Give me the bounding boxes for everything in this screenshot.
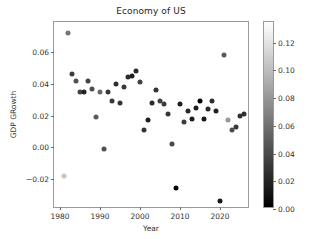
- y-axis-label-text: GDP GRowth: [10, 91, 19, 139]
- x-tick-label: 2020: [210, 212, 229, 221]
- x-tick-label: 1980: [50, 212, 69, 221]
- scatter-point: [118, 100, 123, 105]
- colorbar-tick-mark: [273, 181, 276, 182]
- y-tick-label: 0.00: [32, 143, 49, 152]
- scatter-point: [210, 99, 215, 104]
- scatter-point: [134, 69, 139, 74]
- scatter-point: [214, 108, 219, 113]
- scatter-point: [62, 173, 67, 178]
- x-axis-label: Year: [53, 224, 249, 233]
- colorbar-tick-mark: [273, 209, 276, 210]
- colorbar-tick-mark: [273, 70, 276, 71]
- y-tick-label: 0.04: [32, 79, 49, 88]
- y-tick-label: −0.02: [26, 174, 49, 183]
- y-tick-mark: [51, 116, 54, 117]
- scatter-point: [234, 124, 239, 129]
- scatter-point: [194, 105, 199, 110]
- scatter-point: [114, 81, 119, 86]
- colorbar-tick-label: 0.02: [278, 177, 295, 186]
- scatter-point: [94, 115, 99, 120]
- plot-axes: 0.060.040.020.00−0.02 198019902000201020…: [53, 21, 249, 208]
- colorbar-tick-label: 0.10: [278, 66, 295, 75]
- y-tick-mark: [51, 84, 54, 85]
- colorbar-tick-label: 0.08: [278, 94, 295, 103]
- scatter-point: [242, 111, 247, 116]
- y-axis-label: GDP GRowth: [8, 21, 20, 208]
- y-tick-label: 0.02: [32, 111, 49, 120]
- scatter-point: [150, 100, 155, 105]
- x-tick-mark: [180, 207, 181, 210]
- scatter-point: [202, 116, 207, 121]
- scatter-point: [182, 119, 187, 124]
- scatter-point: [198, 99, 203, 104]
- scatter-point: [154, 88, 159, 93]
- chart-figure: Economy of US 0.060.040.020.00−0.02 1980…: [0, 0, 311, 239]
- scatter-point: [226, 118, 231, 123]
- scatter-point: [70, 72, 75, 77]
- colorbar-tick-mark: [273, 43, 276, 44]
- y-tick-mark: [51, 147, 54, 148]
- scatter-point: [166, 111, 171, 116]
- scatter-point: [106, 89, 111, 94]
- y-tick-mark: [51, 179, 54, 180]
- scatter-point: [146, 118, 151, 123]
- scatter-point: [102, 146, 107, 151]
- scatter-point: [98, 89, 103, 94]
- x-tick-mark: [220, 207, 221, 210]
- scatter-points-layer: [54, 22, 248, 207]
- scatter-point: [178, 102, 183, 107]
- scatter-point: [174, 186, 179, 191]
- scatter-point: [186, 108, 191, 113]
- scatter-point: [130, 73, 135, 78]
- colorbar-tick-label: 0.04: [278, 149, 295, 158]
- scatter-point: [58, 105, 63, 110]
- y-tick-label: 0.06: [32, 48, 49, 57]
- scatter-point: [66, 31, 71, 36]
- colorbar: 0.120.100.080.060.040.020.00: [263, 21, 274, 208]
- scatter-point: [170, 142, 175, 147]
- x-tick-label: 2000: [130, 212, 149, 221]
- x-tick-label: 1990: [90, 212, 109, 221]
- colorbar-tick-label: 0.00: [278, 205, 295, 214]
- scatter-point: [206, 107, 211, 112]
- colorbar-tick-mark: [273, 98, 276, 99]
- scatter-point: [90, 86, 95, 91]
- y-tick-mark: [51, 52, 54, 53]
- scatter-point: [190, 116, 195, 121]
- scatter-point: [110, 99, 115, 104]
- scatter-point: [138, 80, 143, 85]
- scatter-point: [162, 102, 167, 107]
- x-tick-mark: [100, 207, 101, 210]
- scatter-point: [82, 89, 87, 94]
- scatter-point: [86, 78, 91, 83]
- colorbar-tick-label: 0.12: [278, 38, 295, 47]
- scatter-point: [74, 78, 79, 83]
- x-tick-mark: [60, 207, 61, 210]
- x-tick-mark: [140, 207, 141, 210]
- x-tick-label: 2010: [170, 212, 189, 221]
- scatter-point: [122, 84, 127, 89]
- colorbar-tick-mark: [273, 126, 276, 127]
- colorbar-tick-mark: [273, 154, 276, 155]
- scatter-point: [218, 199, 223, 204]
- colorbar-tick-label: 0.06: [278, 121, 295, 130]
- scatter-point: [142, 127, 147, 132]
- chart-title: Economy of US: [53, 6, 249, 16]
- scatter-point: [222, 53, 227, 58]
